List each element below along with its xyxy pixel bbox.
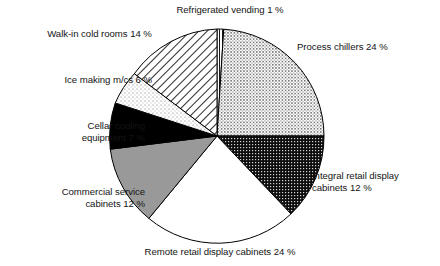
slice-label-process-chillers: Process chillers 24 % — [297, 41, 439, 53]
slice-label-cellar-cooling-equipment: Cellar cooling equipment 7 % — [10, 120, 145, 143]
slice-label-walk-in-cold-rooms: Walk-in cold rooms 14 % — [22, 28, 177, 40]
slice-label-refrigerated-vending: Refrigerated vending 1 % — [150, 4, 310, 16]
slice-label-integral-retail-display-cabinets: Integral retail display cabinets 12 % — [312, 170, 440, 193]
slice-label-commercial-service-cabinets: Commercial service cabinets 12 % — [6, 186, 145, 209]
slice-label-ice-making: Ice making m/cs 6 % — [12, 74, 152, 86]
pie-chart: Refrigerated vending 1 % Walk-in cold ro… — [0, 0, 440, 266]
slice-label-remote-retail-display-cabinets: Remote retail display cabinets 24 % — [110, 246, 330, 258]
